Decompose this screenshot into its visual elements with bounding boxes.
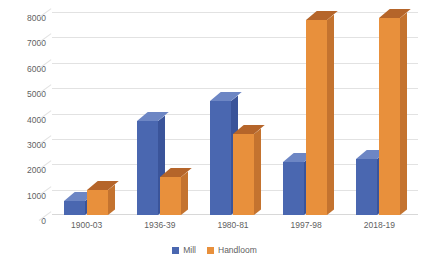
y-axis-tick-label: 2000 xyxy=(0,165,46,175)
x-axis-tick-label: 1980-81 xyxy=(217,220,248,230)
bar-front-face xyxy=(64,201,85,215)
chart-legend: MillHandloom xyxy=(0,245,429,255)
bar-handloom-1980-81 xyxy=(233,134,254,215)
bar-mill-1997-98 xyxy=(283,162,304,215)
bar-handloom-1997-98 xyxy=(306,20,327,215)
bar-side-face xyxy=(181,171,188,215)
plot-area xyxy=(52,12,418,215)
bar-handloom-1936-39 xyxy=(160,177,181,215)
bar-mill-1980-81 xyxy=(210,101,231,215)
bar-front-face xyxy=(306,20,327,215)
legend-swatch-icon xyxy=(207,247,214,254)
x-axis-tick-label: 1997-98 xyxy=(291,220,322,230)
bar-front-face xyxy=(356,159,377,215)
bar-side-face xyxy=(327,14,334,215)
bar-chart: 010002000300040005000600070008000 1900-0… xyxy=(0,0,429,268)
bar-handloom-1900-03 xyxy=(87,190,108,215)
bar-front-face xyxy=(379,18,400,215)
x-axis-tick-label: 1936-39 xyxy=(144,220,175,230)
legend-item-handloom[interactable]: Handloom xyxy=(207,245,257,255)
y-axis-tick-label: 5000 xyxy=(0,89,46,99)
bar-side-face xyxy=(400,13,407,215)
bar-front-face xyxy=(160,177,181,215)
bar-front-face xyxy=(137,121,158,215)
legend-label: Handloom xyxy=(218,245,257,255)
bar-front-face xyxy=(210,101,231,215)
legend-swatch-icon xyxy=(172,247,179,254)
gridline xyxy=(52,12,418,13)
x-axis-tick-label: 2018-19 xyxy=(364,220,395,230)
x-axis: 1900-031936-391980-811997-982018-19 xyxy=(52,220,418,236)
bar-side-face xyxy=(254,128,261,215)
gridline xyxy=(52,37,418,38)
bar-mill-1900-03 xyxy=(64,201,85,215)
y-axis-tick-label: 7000 xyxy=(0,38,46,48)
bar-mill-1936-39 xyxy=(137,121,158,215)
bar-handloom-2018-19 xyxy=(379,18,400,215)
bar-front-face xyxy=(233,134,254,215)
legend-item-mill[interactable]: Mill xyxy=(172,245,196,255)
bar-mill-2018-19 xyxy=(356,159,377,215)
gridline xyxy=(52,63,418,64)
bar-front-face xyxy=(283,162,304,215)
gridline xyxy=(52,88,418,89)
x-axis-tick-label: 1900-03 xyxy=(71,220,102,230)
bar-front-face xyxy=(87,190,108,215)
legend-label: Mill xyxy=(183,245,196,255)
